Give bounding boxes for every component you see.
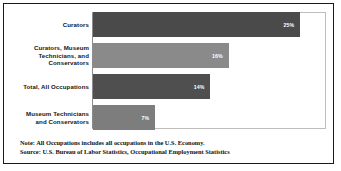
bar-track: 7% [93, 105, 325, 130]
bar-row: Curators 25% [7, 12, 329, 37]
category-label: Curators [7, 21, 89, 29]
category-label-line: Conservators [7, 59, 89, 67]
bar-row: Curators, Museum Technicians, and Conser… [7, 43, 329, 68]
bar-value-label: 16% [212, 53, 229, 59]
category-label-line: Curators [7, 21, 89, 29]
category-label: Curators, Museum Technicians, and Conser… [7, 44, 89, 67]
category-label-line: and Conservators [7, 118, 89, 126]
note-text: Note: All Occupations includes all occup… [20, 138, 325, 147]
bar-curators-museum-technicians-conservators[interactable]: 16% [93, 43, 229, 68]
chart-outer-frame: Curators 25% Curators, Museum Technician… [3, 3, 334, 164]
bar-total-all-occupations[interactable]: 14% [93, 74, 210, 99]
category-label: Total, All Occupations [7, 83, 89, 91]
bar-value-label: 7% [141, 115, 155, 121]
category-label: Museum Technicians and Conservators [7, 110, 89, 125]
bar-track: 25% [93, 12, 325, 37]
chart-footnotes: Note: All Occupations includes all occup… [20, 138, 325, 157]
bar-curators[interactable]: 25% [93, 12, 300, 37]
category-label-line: Curators, Museum [7, 44, 89, 52]
source-text: Source: U.S. Bureau of Labor Statistics,… [20, 147, 325, 156]
bar-value-label: 25% [283, 22, 300, 28]
chart-plot-container: Curators 25% Curators, Museum Technician… [7, 8, 329, 133]
category-label-line: Total, All Occupations [7, 83, 89, 91]
bar-row: Museum Technicians and Conservators 7% [7, 105, 329, 130]
bar-track: 16% [93, 43, 325, 68]
category-label-line: Museum Technicians [7, 110, 89, 118]
bar-track: 14% [93, 74, 325, 99]
category-label-line: Technicians, and [7, 52, 89, 60]
bar-row: Total, All Occupations 14% [7, 74, 329, 99]
bar-museum-technicians-conservators[interactable]: 7% [93, 105, 155, 130]
bar-value-label: 14% [194, 84, 211, 90]
